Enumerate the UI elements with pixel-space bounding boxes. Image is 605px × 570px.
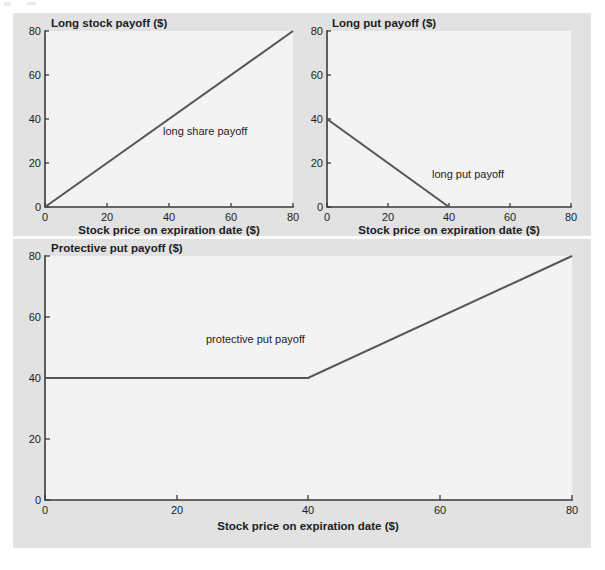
y-tick-label-60: 60: [311, 69, 323, 81]
x-tick-label-60: 60: [504, 211, 516, 223]
payoff-diagrams-figure: 0 20 40 60 80 0 20 40 60 80 Long stock p…: [0, 0, 605, 570]
y-tick-label-80: 80: [29, 25, 41, 37]
x-tick-label-0: 0: [42, 211, 48, 223]
scan-artifact: [4, 2, 11, 6]
x-tick-label-20: 20: [382, 211, 394, 223]
y-tick-label-40: 40: [29, 113, 41, 125]
y-tick-label-20: 20: [311, 157, 323, 169]
y-axis-title: Long put payoff ($): [332, 17, 436, 29]
y-tick-label-0: 0: [35, 201, 41, 213]
y-tick-label-80: 80: [29, 250, 41, 262]
y-tick-label-80: 80: [311, 25, 323, 37]
y-tick-label-0: 0: [35, 494, 41, 506]
x-tick-label-40: 40: [302, 504, 314, 516]
x-axis-title: Stock price on expiration date ($): [358, 224, 540, 236]
chart-long-stock-payoff: 0 20 40 60 80 0 20 40 60 80 Long stock p…: [13, 13, 305, 236]
x-tick-label-80: 80: [565, 211, 577, 223]
x-tick-label-80: 80: [566, 504, 578, 516]
plot-area-background: [327, 31, 571, 207]
y-tick-label-60: 60: [29, 311, 41, 323]
y-axis-title: Long stock payoff ($): [51, 17, 167, 29]
x-tick-label-60: 60: [434, 504, 446, 516]
y-tick-label-40: 40: [311, 113, 323, 125]
y-tick-label-20: 20: [29, 157, 41, 169]
series-annotation: long share payoff: [163, 125, 248, 137]
x-tick-label-40: 40: [163, 211, 175, 223]
y-tick-label-0: 0: [317, 201, 323, 213]
y-axis-title: Protective put payoff ($): [51, 242, 183, 254]
x-tick-label-80: 80: [287, 211, 299, 223]
x-tick-label-20: 20: [101, 211, 113, 223]
x-tick-label-0: 0: [42, 504, 48, 516]
x-tick-label-20: 20: [171, 504, 183, 516]
series-annotation: protective put payoff: [206, 333, 306, 345]
x-tick-label-40: 40: [443, 211, 455, 223]
y-tick-label-40: 40: [29, 372, 41, 384]
y-tick-label-20: 20: [29, 433, 41, 445]
scan-artifact: [27, 2, 36, 5]
series-annotation: long put payoff: [432, 168, 505, 180]
x-tick-label-60: 60: [225, 211, 237, 223]
chart-long-put-payoff: 0 20 40 60 80 0 20 40 60 80 Long put pay…: [299, 13, 591, 236]
chart-protective-put-payoff: 0 20 40 60 80 0 20 40 60 80 Protective p…: [13, 239, 591, 548]
y-tick-label-60: 60: [29, 69, 41, 81]
x-axis-title: Stock price on expiration date ($): [78, 224, 260, 236]
x-axis-title: Stock price on expiration date ($): [217, 520, 399, 532]
x-tick-label-0: 0: [324, 211, 330, 223]
